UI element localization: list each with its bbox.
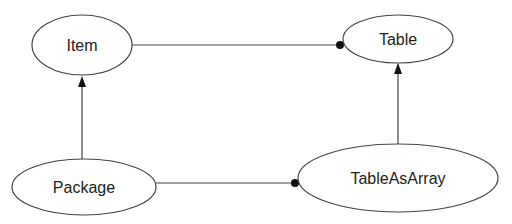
- node-label-item: Item: [66, 37, 97, 54]
- edge-package-item: [78, 76, 86, 159]
- edge-item-table: [132, 41, 344, 49]
- edge-package-tableasarray: [156, 179, 299, 187]
- arrowhead-icon: [78, 76, 86, 87]
- node-tableasarray[interactable]: TableAsArray: [298, 144, 498, 212]
- arrowhead-icon: [394, 63, 402, 74]
- node-item[interactable]: Item: [32, 15, 132, 75]
- class-diagram: Item Table Package TableAsArray: [0, 0, 512, 224]
- node-label-tableasarray: TableAsArray: [350, 170, 445, 187]
- edge-tableasarray-table: [394, 63, 402, 144]
- node-label-package: Package: [53, 179, 115, 196]
- node-package[interactable]: Package: [12, 159, 156, 215]
- node-label-table: Table: [379, 31, 417, 48]
- node-table[interactable]: Table: [343, 15, 453, 63]
- dot-end-icon: [336, 41, 344, 49]
